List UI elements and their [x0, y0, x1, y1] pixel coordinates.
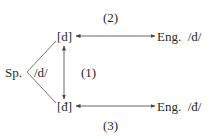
source-phoneme: /d/ [34, 66, 48, 79]
relation-1-label: (1) [81, 66, 96, 79]
target-eng-dh-language: Eng. [157, 99, 181, 114]
source-language: Sp. [5, 66, 22, 79]
allophone-d: [d] [57, 30, 72, 43]
target-eng-dh: Eng. /đ/ [157, 100, 201, 113]
relation-3-label: (3) [103, 119, 118, 132]
target-eng-d-phoneme: /d/ [188, 29, 202, 44]
relation-2-label: (2) [103, 11, 118, 24]
target-eng-d-language: Eng. [157, 29, 181, 44]
target-eng-dh-phoneme: /đ/ [188, 99, 202, 114]
target-eng-d: Eng. /d/ [157, 30, 201, 43]
allophone-dh: [đ] [57, 100, 72, 113]
